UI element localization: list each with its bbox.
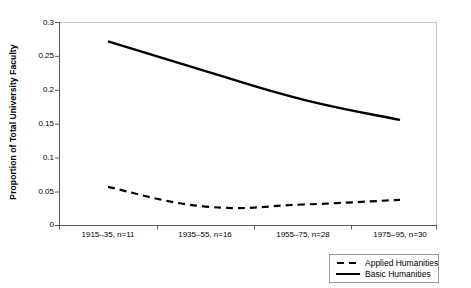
chart-legend: Applied Humanities Basic Humanities bbox=[329, 254, 439, 283]
plot-area bbox=[0, 0, 471, 288]
legend-item-applied-humanities: Applied Humanities bbox=[333, 257, 435, 268]
legend-label: Applied Humanities bbox=[363, 258, 438, 268]
legend-label: Basic Humanities bbox=[363, 269, 431, 279]
x-tick-label: 1955–75, n=28 bbox=[276, 231, 330, 239]
series-line-basic-humanities bbox=[108, 41, 400, 119]
x-tick-label: 1915–35, n=11 bbox=[81, 231, 134, 239]
chart-figure: Proportion of Total University Faculty 0… bbox=[0, 0, 471, 288]
x-axis-ticks bbox=[60, 226, 437, 230]
solid-line-key-icon bbox=[333, 268, 363, 279]
dashed-line-key-icon bbox=[333, 257, 363, 268]
y-axis-ticks bbox=[55, 23, 59, 226]
x-tick-label: 1975–95, n=30 bbox=[373, 231, 427, 239]
x-tick-label: 1935–55, n=16 bbox=[178, 231, 232, 239]
legend-item-basic-humanities: Basic Humanities bbox=[333, 268, 435, 279]
series-line-applied-humanities bbox=[108, 187, 400, 208]
